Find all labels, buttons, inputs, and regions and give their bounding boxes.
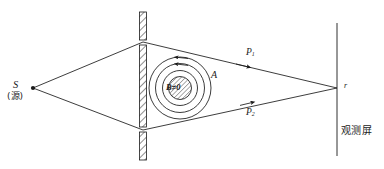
path-lower-label: P2 xyxy=(246,108,255,118)
barrier-segment-top xyxy=(140,12,147,40)
barrier-segment-bottom xyxy=(140,132,147,160)
vector-potential-label: A xyxy=(211,70,217,80)
observation-screen-label: 观测屏 xyxy=(341,126,372,136)
arrow-upper-path xyxy=(236,64,249,67)
path-lower-subscript: 2 xyxy=(252,111,255,117)
barrier-segment-middle xyxy=(140,45,147,127)
ab-effect-figure: S (源) B≠0 A P1 P2 r 观测屏 xyxy=(0,0,384,169)
slit-barrier xyxy=(140,12,147,160)
beam-source-to-upper-slit xyxy=(33,42,143,88)
magnetic-field-region-label: B≠0 xyxy=(166,83,181,92)
source-symbol-label: S xyxy=(13,80,18,91)
path-upper-label: P1 xyxy=(246,48,255,58)
path-direction-arrows xyxy=(236,64,253,105)
source-caption-label: (源) xyxy=(7,92,23,101)
diagram-canvas xyxy=(0,0,384,169)
path-upper-subscript: 1 xyxy=(252,51,255,57)
beam-source-to-lower-slit xyxy=(33,88,143,130)
convergence-point-label: r xyxy=(344,82,347,90)
source-point-marker xyxy=(31,86,35,90)
arrow-lower-path xyxy=(240,102,253,105)
